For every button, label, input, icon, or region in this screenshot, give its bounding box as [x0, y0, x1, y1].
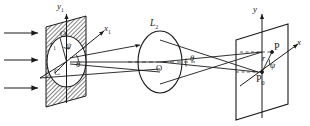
- lens-name-label: L2: [150, 19, 158, 31]
- point-P0-label: P0: [256, 74, 265, 86]
- aperture-center-C-label: C: [54, 68, 60, 77]
- image-psi-label: ψ: [270, 61, 275, 70]
- aperture-radius-label: r1: [50, 40, 56, 51]
- image-radius-label: r: [262, 54, 265, 63]
- point-P-label: P: [274, 42, 280, 52]
- image-x-axis-label: x: [297, 38, 301, 47]
- image-x-axis: [240, 44, 298, 86]
- incident-rays: [4, 33, 38, 88]
- optical-ray-diagram: y1 x1 r1 O ψ C θ L2 O θ y x P r ψ: [0, 0, 310, 126]
- aperture-psi-label: ψ: [66, 41, 71, 50]
- image-y-axis-label: y: [253, 5, 257, 14]
- aperture-theta-label: θ: [76, 60, 80, 69]
- rays-lens-to-image: [160, 40, 262, 84]
- lens-center-label: O: [156, 64, 162, 73]
- aperture-rim-point-O-label: O: [60, 30, 66, 39]
- lens-theta-label: θ: [190, 54, 194, 63]
- aperture-x1-axis-label: x1: [104, 24, 111, 35]
- aperture-y1-axis-label: y1: [57, 2, 64, 13]
